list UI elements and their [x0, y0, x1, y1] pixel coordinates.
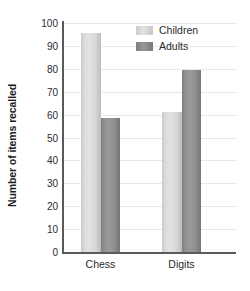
y-axis-title: Number of items recalled: [0, 0, 24, 291]
y-axis-tick-label: 50: [32, 132, 58, 143]
y-axis-tick-label: 30: [32, 178, 58, 189]
bar-chess-adults: [101, 118, 120, 252]
legend-label-adults: Adults: [159, 40, 188, 52]
chart-legend: Children Adults: [136, 24, 198, 52]
y-axis-tick-labels: 1009080706050403020100: [28, 0, 58, 291]
plot-area: [64, 23, 237, 252]
y-axis-tick-label: 100: [32, 18, 58, 29]
y-axis-tick-label: 20: [32, 201, 58, 212]
y-axis-tick-label: 90: [32, 40, 58, 51]
y-axis-tick-label: 60: [32, 109, 58, 120]
x-axis-label-digits: Digits: [142, 258, 222, 270]
bar-digits-children: [162, 112, 182, 252]
x-axis-line: [62, 252, 236, 254]
legend-swatch-children-icon: [136, 26, 153, 35]
bar-chess-children: [81, 33, 101, 252]
y-axis-tick-label: 40: [32, 155, 58, 166]
legend-label-children: Children: [159, 24, 198, 36]
y-axis-tick-label: 70: [32, 86, 58, 97]
bar-chart: Number of items recalled 100908070605040…: [0, 0, 250, 291]
y-axis-tick-label: 0: [32, 247, 58, 258]
bar-digits-adults: [182, 70, 201, 252]
legend-swatch-adults-icon: [136, 42, 153, 51]
y-axis-tick-label: 10: [32, 224, 58, 235]
legend-item-adults: Adults: [136, 40, 198, 52]
x-axis-label-chess: Chess: [61, 258, 141, 270]
legend-item-children: Children: [136, 24, 198, 36]
y-axis-tick-label: 80: [32, 63, 58, 74]
